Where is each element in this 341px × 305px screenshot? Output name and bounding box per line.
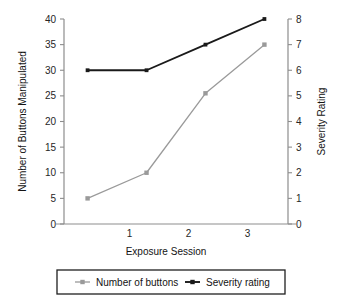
data-point-marker xyxy=(263,17,267,21)
y-axis-right-tick-label: 4 xyxy=(296,116,302,127)
x-axis-tick-label: 1 xyxy=(127,228,133,239)
legend-marker-swatch xyxy=(80,280,84,284)
y-axis-right-tick-labels: 012345678 xyxy=(296,14,302,230)
legend-item-label: Severity rating xyxy=(206,277,270,288)
y-axis-left-tick-label: 10 xyxy=(45,167,57,178)
y-axis-left-tick-label: 15 xyxy=(45,142,57,153)
y-axis-right-tick-label: 6 xyxy=(296,65,302,76)
y-axis-left-tick-label: 40 xyxy=(45,14,57,25)
data-point-marker xyxy=(262,42,266,46)
y-axis-left-tick-label: 25 xyxy=(45,90,57,101)
y-axis-right-tick-label: 5 xyxy=(296,90,302,101)
y-axis-right-title: Severity Rating xyxy=(316,88,327,156)
y-axis-left-tick-label: 0 xyxy=(50,219,56,230)
data-point-marker xyxy=(203,91,207,95)
data-point-marker xyxy=(86,68,90,72)
chart-legend[interactable]: Number of buttonsSeverity rating xyxy=(57,270,285,294)
y-axis-left-tick-label: 35 xyxy=(45,39,57,50)
y-axis-right-tick-label: 0 xyxy=(296,219,302,230)
data-point-marker xyxy=(145,68,149,72)
y-axis-right-tick-label: 2 xyxy=(296,167,302,178)
data-point-marker xyxy=(144,171,148,175)
dual-axis-line-chart: 0510152025303540 012345678 123 Number of… xyxy=(0,0,341,305)
y-axis-left-tick-label: 5 xyxy=(50,193,56,204)
y-axis-right-tick-label: 1 xyxy=(296,193,302,204)
y-axis-left-tick-label: 20 xyxy=(45,116,57,127)
x-axis-tick-label: 3 xyxy=(245,228,251,239)
x-axis-title: Exposure Session xyxy=(126,246,207,257)
y-axis-right-tick-label: 7 xyxy=(296,39,302,50)
x-axis-tick-label: 2 xyxy=(186,228,192,239)
data-point-marker xyxy=(204,43,208,47)
y-axis-left-tick-label: 30 xyxy=(45,65,57,76)
data-point-marker xyxy=(85,196,89,200)
y-axis-left-title: Number of Buttons Manipulated xyxy=(17,51,28,192)
y-axis-right-tick-label: 8 xyxy=(296,14,302,25)
legend-item-label: Number of buttons xyxy=(96,277,178,288)
legend-marker-swatch xyxy=(190,280,194,284)
y-axis-right-tick-label: 3 xyxy=(296,142,302,153)
chart-container: 0510152025303540 012345678 123 Number of… xyxy=(0,0,341,305)
